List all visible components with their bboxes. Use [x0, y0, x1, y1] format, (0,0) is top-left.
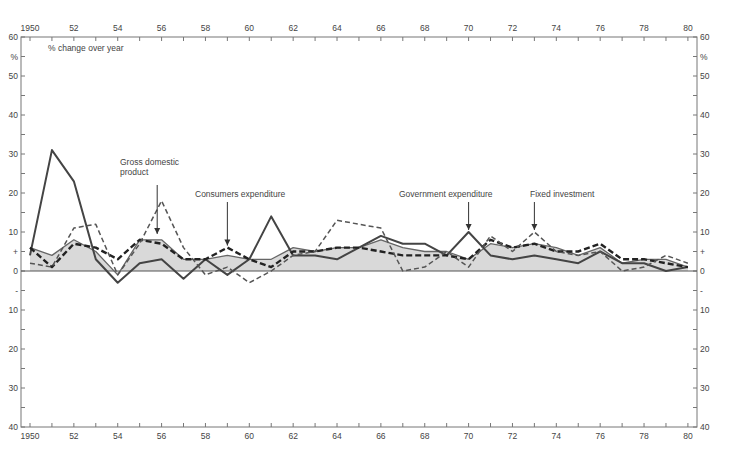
y-tick-label-right: 60	[700, 32, 710, 42]
y-tick-label-left: %	[10, 52, 18, 62]
line-chart: 1950195052525454565658586060626264646666…	[0, 0, 734, 451]
y-tick-label-right: 30	[700, 383, 710, 393]
x-tick-label-top: 58	[201, 23, 211, 33]
annotation-label: Fixed investment	[530, 189, 595, 199]
y-tick-label-left: 20	[9, 188, 19, 198]
plot-frame	[21, 37, 697, 427]
y-tick-label-left: -	[15, 286, 18, 296]
y-tick-label-left: 10	[9, 227, 19, 237]
y-tick-label-right: 50	[700, 71, 710, 81]
x-tick-label-top: 68	[420, 23, 430, 33]
y-tick-label-left: 30	[9, 383, 19, 393]
chart-title: % change over year	[48, 43, 124, 53]
x-tick-label-bottom: 60	[245, 431, 255, 441]
x-tick-label-top: 78	[639, 23, 649, 33]
y-tick-label-left: 40	[9, 110, 19, 120]
x-tick-label-top: 62	[288, 23, 298, 33]
x-tick-label-bottom: 68	[420, 431, 430, 441]
y-tick-label-right: +	[700, 247, 705, 257]
y-tick-label-left: 60	[9, 32, 19, 42]
x-tick-label-bottom: 78	[639, 431, 649, 441]
x-tick-label-top: 60	[245, 23, 255, 33]
y-tick-label-left: 20	[9, 344, 19, 354]
y-tick-label-right: 0	[700, 266, 705, 276]
y-tick-label-left: 40	[9, 422, 19, 432]
x-tick-label-top: 74	[552, 23, 562, 33]
x-tick-label-bottom: 66	[376, 431, 386, 441]
x-tick-label-top: 76	[595, 23, 605, 33]
annotation-label: product	[120, 167, 149, 177]
x-tick-label-top: 52	[69, 23, 79, 33]
y-tick-label-right: 30	[700, 149, 710, 159]
x-tick-label-bottom: 1950	[21, 431, 40, 441]
annotation-label: Gross domestic	[120, 157, 180, 167]
arrowhead-icon	[154, 228, 160, 234]
x-tick-label-top: 72	[508, 23, 518, 33]
y-tick-label-right: 10	[700, 227, 710, 237]
x-tick-label-top: 66	[376, 23, 386, 33]
x-tick-label-bottom: 76	[595, 431, 605, 441]
x-tick-label-top: 54	[113, 23, 123, 33]
y-tick-label-left: 50	[9, 71, 19, 81]
x-tick-label-bottom: 80	[683, 431, 693, 441]
y-tick-label-left: +	[13, 247, 18, 257]
x-tick-label-bottom: 54	[113, 431, 123, 441]
annotation-label: Consumers expenditure	[195, 189, 286, 199]
annotation-label: Government expenditure	[399, 189, 493, 199]
y-tick-label-right: 40	[700, 422, 710, 432]
y-tick-label-right: %	[700, 52, 708, 62]
arrowhead-icon	[224, 240, 230, 246]
y-tick-label-left: 0	[13, 266, 18, 276]
y-tick-label-right: -	[700, 286, 703, 296]
y-tick-label-right: 20	[700, 188, 710, 198]
x-tick-label-top: 1950	[21, 23, 40, 33]
x-tick-label-bottom: 74	[552, 431, 562, 441]
x-tick-label-top: 64	[332, 23, 342, 33]
arrowhead-icon	[466, 224, 472, 230]
y-tick-label-right: 40	[700, 110, 710, 120]
y-tick-label-left: 10	[9, 305, 19, 315]
y-tick-label-right: 10	[700, 305, 710, 315]
x-tick-label-top: 80	[683, 23, 693, 33]
y-tick-label-left: 30	[9, 149, 19, 159]
x-tick-label-bottom: 62	[288, 431, 298, 441]
arrowhead-icon	[531, 224, 537, 230]
x-tick-label-bottom: 72	[508, 431, 518, 441]
x-tick-label-bottom: 56	[157, 431, 167, 441]
x-tick-label-bottom: 52	[69, 431, 79, 441]
x-tick-label-top: 56	[157, 23, 167, 33]
x-tick-label-bottom: 70	[464, 431, 474, 441]
x-tick-label-bottom: 58	[201, 431, 211, 441]
x-tick-label-top: 70	[464, 23, 474, 33]
x-tick-label-bottom: 64	[332, 431, 342, 441]
y-tick-label-right: 20	[700, 344, 710, 354]
